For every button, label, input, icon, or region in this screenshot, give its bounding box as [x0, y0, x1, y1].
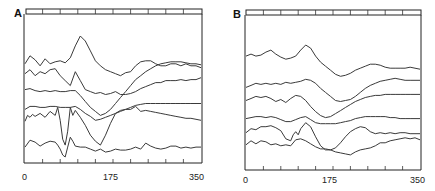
panel-a-trace-5 [25, 106, 201, 145]
panel-a-xtick-175: 175 [103, 172, 118, 182]
panel-b-trace-4 [246, 117, 420, 124]
panel-b-traces [246, 45, 420, 155]
panel-b-top-scale-bar [246, 10, 421, 15]
panel-b-trace-6 [246, 138, 420, 155]
panel-b-label: B [233, 8, 241, 20]
panel-b: B 0 175 350 [233, 8, 425, 185]
panel-b-trace-1 [246, 45, 420, 76]
panel-b-xtick-350: 350 [410, 175, 425, 185]
panel-b-trace-5 [246, 123, 420, 150]
panel-a: A 0 175 350 [14, 7, 204, 182]
figure: A 0 175 350 B 0 175 350 [0, 0, 435, 191]
panel-a-traces [25, 36, 201, 157]
panel-b-top-ticks [263, 10, 402, 15]
panel-b-xtick-0: 0 [243, 175, 248, 185]
panel-a-top-scale-bar [26, 9, 202, 14]
panel-a-x-ticks [43, 159, 184, 163]
panel-a-xtick-0: 0 [22, 172, 27, 182]
panel-b-trace-2 [246, 78, 420, 101]
panel-a-label: A [14, 7, 22, 19]
panel-a-xtick-350: 350 [189, 172, 204, 182]
panel-a-trace-6 [25, 137, 201, 157]
panel-a-top-ticks [43, 9, 184, 14]
panel-b-x-ticks [263, 166, 402, 170]
panel-b-xtick-175: 175 [322, 175, 337, 185]
